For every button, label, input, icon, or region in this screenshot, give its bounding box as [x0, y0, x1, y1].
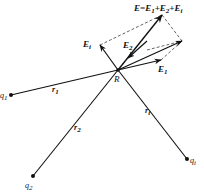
dashed-ei-to-e — [100, 15, 162, 45]
charge-q1-dot — [9, 93, 13, 97]
label-r1: r1 — [52, 85, 59, 96]
equation-label: E=E1+E2+Ei — [133, 3, 182, 15]
label-q1: q1 — [0, 91, 8, 102]
label-r: R — [113, 74, 120, 84]
charge-q2-dot — [31, 174, 35, 178]
label-qi: qi — [190, 156, 196, 167]
line-ri — [118, 70, 187, 159]
vector-ei — [100, 45, 118, 70]
charge-qi-dot — [185, 157, 189, 161]
distance-lines — [11, 70, 187, 176]
label-e2: E2 — [122, 40, 133, 52]
label-ei: Ei — [82, 39, 91, 51]
field-vectors — [100, 15, 182, 70]
label-ri: ri — [145, 106, 150, 117]
construction-lines — [100, 15, 182, 60]
electric-field-superposition-diagram: E=E1+E2+Ei Ei E2 E1 R r1 r2 ri q1 q2 qi — [0, 0, 204, 192]
point-r-dot — [116, 68, 120, 72]
label-q2: q2 — [25, 181, 33, 192]
dashed-e-to-e12 — [162, 15, 182, 41]
label-e1: E1 — [157, 64, 168, 76]
line-r1 — [11, 70, 118, 95]
label-r2: r2 — [74, 123, 81, 134]
